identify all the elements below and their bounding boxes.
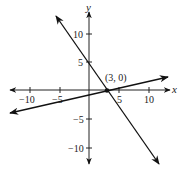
- intersection-point: [105, 88, 110, 93]
- intersection-label: (3, 0): [105, 72, 127, 84]
- x-tick-label: 5: [117, 94, 122, 105]
- x-tick-label: 10: [144, 94, 154, 105]
- y-tick-label: −5: [73, 114, 84, 125]
- x-axis-label: x: [171, 83, 177, 95]
- y-tick-label: 5: [78, 57, 83, 68]
- x-tick-label: −10: [19, 94, 35, 105]
- y-tick-label: 10: [73, 29, 83, 40]
- coordinate-plane: −10 −5 5 10 10 5 −5 −10 x y (3, 0): [0, 0, 182, 169]
- y-tick-label: −10: [68, 143, 84, 154]
- y-axis-label: y: [85, 1, 91, 13]
